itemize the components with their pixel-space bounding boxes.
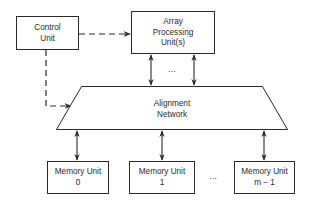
memory-unit-1-label-line2: 1 (160, 178, 165, 187)
apu-label-line3: Unit(s) (161, 38, 185, 47)
memory-ellipsis: … (209, 172, 217, 181)
memory-unit-0-label-line2: 0 (76, 178, 81, 187)
memory-unit-m1-label-line1: Memory Unit (241, 167, 288, 176)
memory-unit-1-node: Memory Unit 1 (130, 162, 195, 194)
apu-label-line1: Array (163, 17, 183, 26)
control-to-network-dashed-arrow (46, 50, 71, 106)
memory-unit-1-label-line1: Memory Unit (139, 167, 186, 176)
memory-unit-0-node: Memory Unit 0 (48, 162, 109, 194)
memory-unit-0-label-line1: Memory Unit (55, 167, 102, 176)
memory-unit-m1-label-line2: m − 1 (254, 178, 275, 187)
control-unit-label-line1: Control (34, 23, 61, 32)
array-processing-unit-node: Array Processing Unit(s) (132, 12, 215, 54)
alignment-network-label-line2: Network (157, 110, 188, 119)
memory-unit-m1-offset: − 1 (261, 178, 275, 187)
apu-label-line2: Processing (153, 28, 194, 37)
control-unit-label-line2: Unit (40, 34, 55, 43)
alignment-network-node: Alignment Network (57, 87, 288, 130)
array-processor-diagram: Control Unit Array Processing Unit(s) Al… (0, 0, 310, 206)
apu-ellipsis: … (168, 65, 176, 74)
alignment-network-label-line1: Alignment (154, 99, 191, 108)
control-unit-node: Control Unit (17, 17, 79, 50)
memory-unit-m-minus-1-node: Memory Unit m − 1 (235, 162, 295, 194)
